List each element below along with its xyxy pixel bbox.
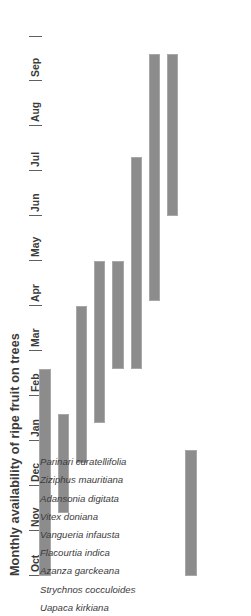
species-label: Uapaca kirkiana (40, 603, 109, 613)
species-label: Strychnos cocculoides (40, 585, 135, 595)
species-label: Vangueria infausta (40, 530, 120, 540)
species-label: Parinari curatellifolia (40, 457, 126, 467)
species-axis: Uapaca kirkianaStrychnos cocculoidesAzan… (36, 76, 200, 616)
chart-rotation-wrapper: Monthly availability of ripe fruit on tr… (0, 0, 251, 616)
fruit-availability-chart: Monthly availability of ripe fruit on tr… (0, 0, 251, 616)
chart-title: Monthly availability of ripe fruit on tr… (8, 333, 22, 576)
species-label: Flacourtia indica (40, 548, 110, 558)
species-label: Azanza garckeana (40, 566, 119, 576)
species-label: Ziziphus mauritiana (40, 475, 123, 485)
species-label: Vitex doniana (40, 512, 98, 522)
species-label: Adansonia digitata (40, 494, 119, 504)
